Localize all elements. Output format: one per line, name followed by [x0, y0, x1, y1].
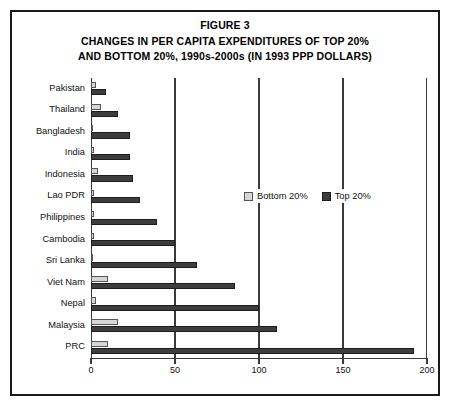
- legend-swatch-icon-bottom-20: [244, 192, 253, 201]
- bar-bottom-20-thailand: [91, 104, 101, 110]
- bar-bottom-20-lao-pdr: [91, 190, 94, 196]
- category-label-bangladesh: Bangladesh: [36, 126, 85, 136]
- x-tick-mark-0: [90, 358, 91, 364]
- legend-label-top-20: Top 20%: [335, 191, 371, 201]
- category-label-nepal: Nepal: [61, 298, 85, 308]
- bar-bottom-20-sri-lanka: [91, 254, 93, 260]
- figure-frame: FIGURE 3 CHANGES IN PER CAPITA EXPENDITU…: [10, 10, 440, 396]
- x-tick-label-100: 100: [251, 365, 266, 375]
- x-tick-mark-150: [342, 358, 343, 364]
- bar-top-20-nepal: [91, 305, 259, 311]
- x-tick-mark-100: [258, 358, 259, 364]
- bar-top-20-thailand: [91, 111, 118, 117]
- category-label-indonesia: Indonesia: [45, 169, 85, 179]
- gridline-100: [258, 78, 259, 358]
- bar-top-20-lao-pdr: [91, 197, 140, 203]
- x-tick-label-200: 200: [419, 365, 434, 375]
- category-label-lao-pdr: Lao PDR: [47, 190, 85, 200]
- bar-top-20-malaysia: [91, 326, 277, 332]
- bar-bottom-20-nepal: [91, 297, 96, 303]
- category-label-prc: PRC: [65, 341, 85, 351]
- bar-top-20-cambodia: [91, 240, 175, 246]
- bar-bottom-20-malaysia: [91, 319, 118, 325]
- bar-top-20-bangladesh: [91, 132, 130, 138]
- bar-bottom-20-bangladesh: [91, 125, 93, 131]
- x-tick-label-0: 0: [88, 365, 93, 375]
- bar-top-20-indonesia: [91, 175, 133, 181]
- chart-legend: Bottom 20% Top 20%: [241, 189, 374, 203]
- legend-swatch-icon-top-20: [322, 192, 331, 201]
- x-tick-mark-50: [174, 358, 175, 364]
- legend-label-bottom-20: Bottom 20%: [257, 191, 308, 201]
- x-tick-label-50: 50: [170, 365, 180, 375]
- category-label-philippines: Philippines: [40, 212, 85, 222]
- bar-top-20-india: [91, 154, 130, 160]
- legend-item-bottom-20: Bottom 20%: [244, 191, 308, 201]
- gridline-150: [342, 78, 343, 358]
- legend-item-top-20: Top 20%: [322, 191, 371, 201]
- bar-top-20-philippines: [91, 219, 157, 225]
- bar-top-20-pakistan: [91, 89, 106, 95]
- category-label-malaysia: Malaysia: [48, 320, 85, 330]
- category-label-india: India: [65, 147, 85, 157]
- bar-bottom-20-india: [91, 147, 94, 153]
- bar-top-20-sri-lanka: [91, 262, 197, 268]
- bar-bottom-20-indonesia: [91, 168, 98, 174]
- category-label-thailand: Thailand: [49, 104, 85, 114]
- category-label-viet-nam: Viet Nam: [47, 277, 85, 287]
- category-label-pakistan: Pakistan: [49, 83, 85, 93]
- category-label-sri-lanka: Sri Lanka: [46, 255, 85, 265]
- x-tick-mark-200: [426, 358, 427, 364]
- bar-top-20-viet-nam: [91, 283, 235, 289]
- bar-bottom-20-viet-nam: [91, 276, 108, 282]
- gridline-50: [174, 78, 175, 358]
- bar-bottom-20-cambodia: [91, 233, 94, 239]
- category-label-cambodia: Cambodia: [43, 234, 85, 244]
- chart-plot-wrapper: 050100150200 PakistanThailandBangladeshI…: [12, 12, 438, 394]
- bar-top-20-prc: [91, 348, 414, 354]
- bar-bottom-20-pakistan: [91, 82, 96, 88]
- x-tick-label-150: 150: [335, 365, 350, 375]
- bar-bottom-20-philippines: [91, 211, 94, 217]
- bar-bottom-20-prc: [91, 341, 108, 347]
